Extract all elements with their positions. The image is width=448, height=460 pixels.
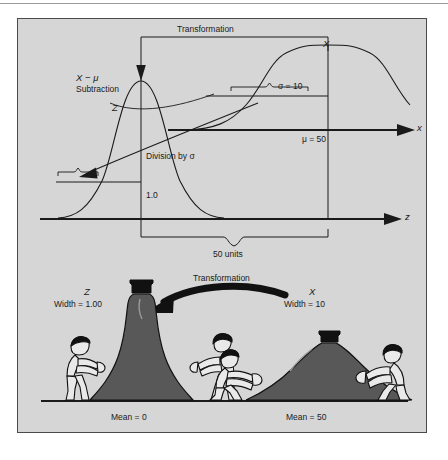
mu-equals-label: μ = 50 — [302, 135, 326, 145]
z-sigma-value-label: 1.0 — [146, 191, 158, 201]
figure-panel: Transformation X − μ Subtraction Z X σ =… — [17, 18, 427, 433]
transformation-connector-path — [141, 37, 328, 67]
x-width-label: Width = 10 — [284, 300, 325, 310]
subtraction-label: Subtraction — [76, 85, 119, 95]
fifty-units-brace — [141, 229, 328, 246]
figure-root: Transformation X − μ Subtraction Z X σ =… — [0, 0, 448, 460]
x-mound-title: X — [309, 287, 315, 298]
z-axis-label: z — [405, 212, 410, 223]
z-mean-label: Mean = 0 — [111, 413, 147, 423]
division-curve-guide — [110, 94, 214, 109]
z-curve-label: Z — [112, 103, 118, 114]
sigma-equals-label: σ = 10 — [278, 82, 302, 92]
division-arrowhead — [79, 168, 98, 179]
division-by-sigma-label: Division by σ — [146, 152, 195, 162]
lower-transformation-arrow — [144, 286, 285, 313]
x-axis-arrowhead — [397, 124, 415, 136]
z-axis-arrowhead — [384, 213, 402, 225]
subtraction-numerator-label: X − μ — [76, 73, 98, 84]
fifty-units-label: 50 units — [213, 250, 243, 260]
z-mound-shape — [90, 294, 193, 400]
z-mound-knob — [130, 280, 153, 293]
x-axis-label: x — [417, 123, 422, 134]
x-curve-label: X — [323, 39, 329, 50]
z-mound-title: Z — [84, 287, 90, 298]
x-mound-knob — [319, 331, 340, 342]
upper-transformation-label: Transformation — [177, 25, 234, 35]
lower-transformation-label: Transformation — [193, 274, 250, 284]
z-width-label: Width = 1.00 — [54, 300, 102, 310]
top-divider-rule — [0, 3, 448, 4]
x-mean-label: Mean = 50 — [286, 413, 326, 423]
